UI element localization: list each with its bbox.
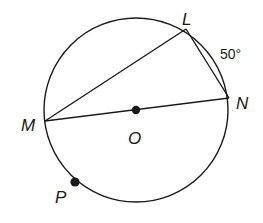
label-n: N [236, 94, 249, 113]
label-m: M [21, 116, 36, 135]
chord-ml [45, 29, 186, 121]
label-l: L [182, 10, 191, 29]
point-p [70, 177, 79, 186]
chord-ln [186, 29, 229, 98]
arc-ln-measure: 50° [220, 46, 241, 62]
center-point-o [132, 106, 140, 114]
label-p: P [55, 188, 67, 207]
label-o: O [128, 129, 141, 148]
circle-diagram: L 50° N M O P [0, 0, 263, 223]
